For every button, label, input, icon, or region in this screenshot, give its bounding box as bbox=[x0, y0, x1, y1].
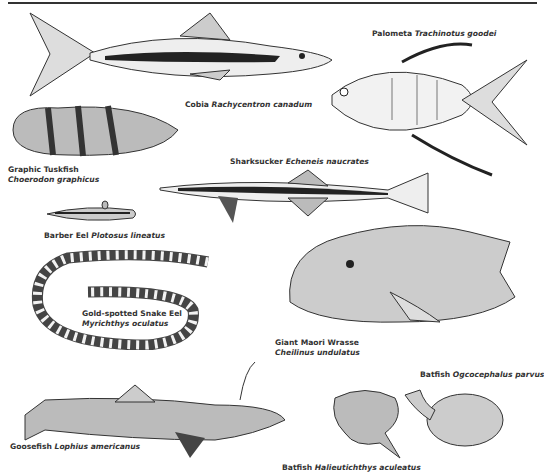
wrasse-illustration bbox=[280, 212, 520, 337]
snake-eel-illustration bbox=[28, 250, 218, 350]
tuskfish-label: Graphic Tuskfish Choerodon graphicus bbox=[8, 165, 99, 185]
cobia-label: Cobia Rachycentron canadum bbox=[185, 100, 312, 110]
barber-eel-illustration bbox=[45, 200, 140, 228]
palometa-label: Palometa Trachinotus goodei bbox=[372, 29, 496, 39]
batfish-ogco-label: Batfish Ogcocephalus parvus bbox=[420, 370, 544, 380]
top-rule bbox=[8, 2, 537, 4]
batfish-halieu-label: Batfish Halieutichthys aculeatus bbox=[282, 463, 421, 473]
goosefish-label: Goosefish Lophius americanus bbox=[10, 442, 140, 452]
sharksucker-label: Sharksucker Echeneis naucrates bbox=[230, 157, 369, 167]
barber-eel-label: Barber Eel Plotosus lineatus bbox=[44, 231, 165, 241]
wrasse-label: Giant Maori Wrasse Cheilinus undulatus bbox=[275, 338, 360, 358]
batfish-halieu-illustration bbox=[325, 378, 425, 463]
tuskfish-illustration bbox=[8, 100, 183, 160]
cobia-illustration bbox=[20, 8, 340, 98]
snake-eel-label: Gold-spotted Snake Eel Myrichthys oculat… bbox=[82, 309, 182, 329]
